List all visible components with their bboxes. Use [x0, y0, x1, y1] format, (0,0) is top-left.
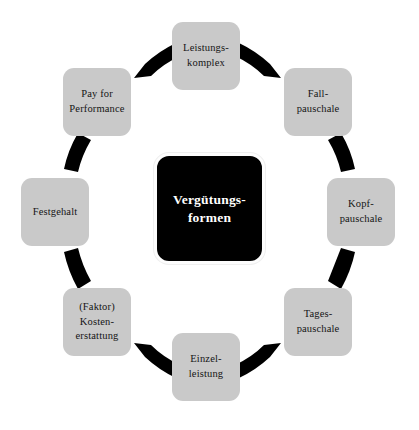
connector-segment-8	[64, 133, 91, 172]
node-label: Tages- pauschale	[297, 307, 340, 337]
cycle-diagram: Leistungs- komplex Fall- pauschale Kopf-…	[0, 0, 419, 430]
node-kostenerstattung[interactable]: (Faktor) Kosten- erstattung	[63, 288, 131, 356]
node-label: Leistungs- komplex	[183, 41, 229, 71]
node-fallpauschale[interactable]: Fall- pauschale	[284, 68, 352, 136]
connector-segment-3	[328, 133, 355, 172]
node-label: Festgehalt	[33, 205, 78, 220]
connector-segment-2	[235, 43, 281, 78]
node-festgehalt[interactable]: Festgehalt	[21, 178, 89, 246]
connector-segment-4	[328, 248, 355, 289]
node-label: Fall- pauschale	[297, 87, 340, 117]
node-kopfpauschale[interactable]: Kopf- pauschale	[327, 178, 395, 246]
node-einzelleistung[interactable]: Einzel- leistung	[172, 333, 240, 401]
node-label: (Faktor) Kosten- erstattung	[76, 300, 119, 345]
node-leistungskomplex[interactable]: Leistungs- komplex	[172, 22, 240, 90]
node-label: Kopf- pauschale	[340, 197, 383, 227]
connector-segment-7	[64, 248, 91, 289]
center-node-verguetungsformen[interactable]: Vergütungs- formen	[154, 153, 265, 264]
node-tagespauschale[interactable]: Tages- pauschale	[284, 288, 352, 356]
connector-segment-5	[235, 343, 281, 378]
node-label: Pay for Performance	[69, 87, 124, 117]
node-pay-for-performance[interactable]: Pay for Performance	[63, 68, 131, 136]
node-label: Einzel- leistung	[189, 352, 223, 382]
center-node-label: Vergütungs- formen	[173, 191, 246, 227]
